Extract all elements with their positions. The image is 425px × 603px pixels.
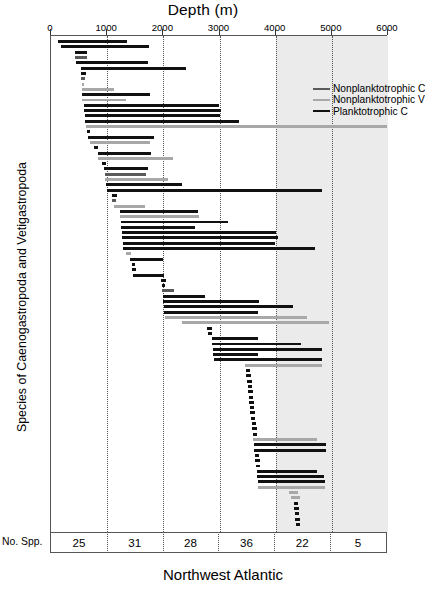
depth-range-bar (61, 45, 150, 48)
chart-title: Depth (m) (0, 1, 406, 19)
depth-range-bar (130, 258, 164, 261)
depth-range-bar (295, 518, 299, 521)
depth-range-bar (114, 205, 145, 208)
legend-swatch-line (313, 88, 330, 90)
no-spp-label: No. Spp. (2, 536, 42, 547)
depth-range-bar (255, 454, 259, 457)
no-spp-cell-0-1000: 25 (51, 533, 107, 552)
depth-range-bar (75, 51, 87, 54)
no-spp-cell-1000-2000: 31 (107, 533, 163, 552)
depth-range-bar (121, 221, 229, 224)
depth-range-bar (164, 311, 257, 314)
depth-range-bar (291, 496, 299, 499)
depth-range-bar (163, 300, 258, 303)
legend-label: Planktotrophic C (333, 106, 408, 117)
depth-range-bar (254, 443, 326, 446)
depth-range-bar (251, 417, 255, 420)
bottom-axis-title: Northwest Atlantic (40, 566, 406, 583)
depth-range-bar (81, 72, 86, 75)
depth-range-bar (246, 374, 250, 377)
depth-range-bar (212, 337, 259, 340)
depth-range-bar (87, 130, 90, 133)
depth-range-bar (254, 449, 325, 452)
legend-swatch-line (313, 110, 330, 112)
legend-label: Nonplanktotrophic V (333, 94, 425, 105)
depth-range-bar (82, 93, 150, 96)
x-tick-mark-6000 (387, 29, 388, 35)
legend-label: Nonplanktotrophic C (333, 83, 425, 94)
depth-range-bar (214, 358, 322, 361)
depth-range-bar (132, 268, 135, 271)
depth-range-bar (256, 465, 260, 468)
depth-range-bar (98, 157, 173, 160)
depth-range-bar (162, 284, 165, 287)
plot-area: Nonplanktotrophic C Nonplanktotrophic V … (50, 35, 387, 532)
depth-range-bar (249, 401, 253, 404)
depth-range-bar (82, 99, 125, 102)
depth-range-bar (88, 136, 154, 139)
depth-range-bar (102, 162, 106, 165)
depth-range-bar (126, 252, 130, 255)
depth-range-bar (294, 502, 298, 505)
depth-range-bar (296, 523, 300, 526)
depth-range-bar (258, 480, 325, 483)
depth-range-bar (252, 422, 256, 425)
depth-range-bar (252, 427, 256, 430)
depth-range-bar (245, 364, 321, 367)
legend-item-planktotrophic-c: Planktotrophic C (313, 106, 425, 117)
depth-range-bar (112, 199, 116, 202)
depth-range-bar (123, 247, 315, 250)
depth-range-bar (105, 173, 147, 176)
no-spp-cell-2000-3000: 28 (163, 533, 219, 552)
no-spp-cell-4000-5000: 22 (274, 533, 330, 552)
depth-range-bar (121, 226, 195, 229)
legend: Nonplanktotrophic C Nonplanktotrophic V … (313, 83, 425, 117)
depth-range-bar (258, 486, 324, 489)
depth-range-bar (123, 242, 275, 245)
depth-range-bar (163, 295, 205, 298)
depth-range-bar (82, 88, 114, 91)
depth-range-bar (84, 104, 220, 107)
depth-range-bar (255, 459, 259, 462)
depth-range-bar (294, 507, 298, 510)
depth-range-bar (133, 274, 164, 277)
legend-item-nonplanktotrophic-v: Nonplanktotrophic V (313, 94, 425, 105)
depth-range-bar (85, 120, 239, 123)
depth-range-bar (105, 178, 167, 181)
depth-range-bar (122, 231, 276, 234)
depth-range-bar (250, 411, 254, 414)
depth-range-bar (81, 77, 84, 80)
depth-range-bar (94, 146, 98, 149)
depth-range-bar (249, 396, 253, 399)
depth-range-bar (182, 321, 329, 324)
depth-range-bar (106, 183, 182, 186)
depth-range-bar (248, 390, 252, 393)
depth-range-bar (257, 475, 324, 478)
depth-range-bar (132, 263, 135, 266)
depth-range-bar (295, 512, 299, 515)
depth-range-bar (122, 236, 278, 239)
depth-range-bar (289, 491, 298, 494)
depth-range-bar (58, 40, 127, 43)
depth-range-bar (208, 332, 212, 335)
depth-range-bar (120, 210, 199, 213)
depth-range-bar (212, 343, 301, 346)
y-axis-title: Species of Caenogastropoda and Vetigastr… (15, 87, 29, 507)
depth-range-bar (112, 194, 118, 197)
legend-swatch-line (313, 99, 330, 101)
no-spp-cell-5000-6000: 5 (330, 533, 386, 552)
depth-range-bar (164, 305, 293, 308)
depth-range-bar (165, 316, 307, 319)
no-spp-row: 25312836225 (50, 532, 387, 553)
depth-range-bar (213, 353, 257, 356)
depth-range-bar (248, 385, 252, 388)
depth-range-bar (104, 167, 148, 170)
depth-range-bar (207, 327, 211, 330)
depth-range-bar (76, 61, 148, 64)
depth-range-bar (90, 141, 150, 144)
depth-range-bar (257, 470, 318, 473)
depth-range-bar (107, 189, 323, 192)
depth-range-bar (75, 56, 87, 59)
depth-range-bar (246, 369, 250, 372)
